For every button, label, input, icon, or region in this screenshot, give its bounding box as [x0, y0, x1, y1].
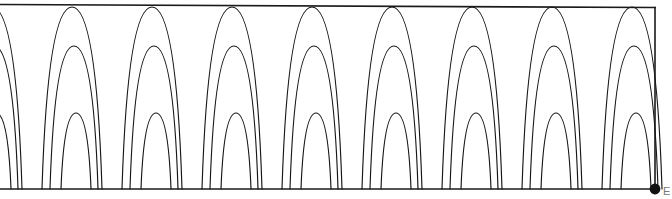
- edge-clipped-label: E: [663, 186, 672, 197]
- plot-canvas: [0, 0, 672, 199]
- chart-figure: E: [0, 0, 672, 199]
- series-outer-arch: [0, 7, 662, 189]
- data-series-group: [0, 7, 662, 189]
- frame-top-border: [0, 5, 655, 8]
- annotation-group: [650, 184, 661, 195]
- end-marker-dot: [650, 184, 661, 195]
